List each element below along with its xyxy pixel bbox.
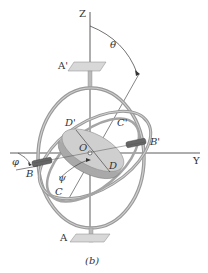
theta-label: θ xyxy=(110,40,116,50)
psi-label: ψ xyxy=(58,173,66,183)
gyroscope-diagram xyxy=(0,0,208,273)
origin-point xyxy=(88,151,92,155)
a-prime-shaft xyxy=(88,71,92,88)
theta-arrowhead xyxy=(135,70,140,76)
a-label: A xyxy=(60,233,67,243)
a-plate xyxy=(70,234,110,242)
d-prime-label: D' xyxy=(65,118,76,128)
origin-label: O xyxy=(79,143,87,153)
figure-caption: (b) xyxy=(85,256,99,266)
a-prime-label: A' xyxy=(58,61,68,71)
z-axis-label: Z xyxy=(79,9,86,19)
c-prime-label: C' xyxy=(117,118,127,128)
phi-label: φ xyxy=(12,157,19,167)
b-label: B xyxy=(26,169,33,179)
c-label: C xyxy=(55,187,63,197)
y-axis-label: Y xyxy=(193,156,200,166)
a-prime-plate xyxy=(68,62,106,71)
b-prime-label: B' xyxy=(150,137,160,147)
d-label: D xyxy=(109,161,117,171)
phi-arc xyxy=(18,153,30,163)
